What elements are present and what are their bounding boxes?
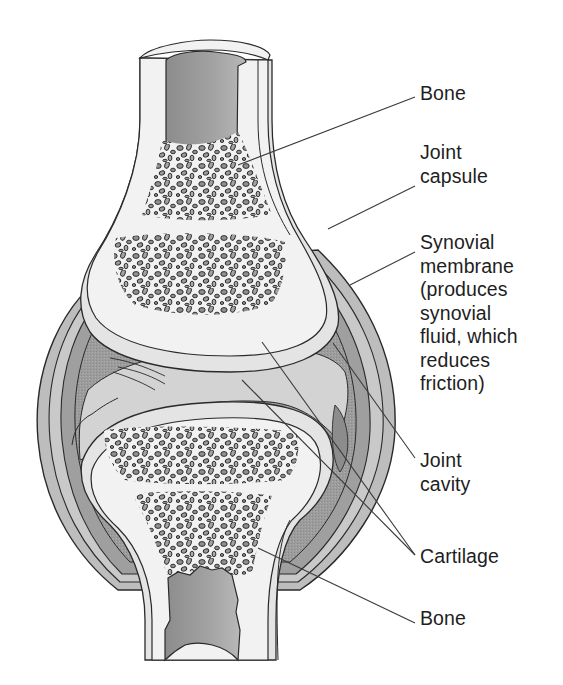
label-bone-top: Bone [420, 82, 466, 106]
label-cartilage: Cartilage [420, 545, 499, 569]
label-synovial-membrane: Synovial membrane (produces synovial flu… [420, 231, 518, 396]
leader-line-synovial-membrane [350, 252, 415, 285]
synovial-joint-diagram: Bone Joint capsule Synovial membrane (pr… [0, 0, 563, 685]
label-bone-bottom: Bone [420, 607, 466, 631]
leader-line-joint-capsule [328, 186, 415, 229]
label-joint-capsule: Joint capsule [420, 141, 488, 188]
label-joint-cavity: Joint cavity [420, 449, 470, 496]
upper-bone [81, 40, 339, 372]
